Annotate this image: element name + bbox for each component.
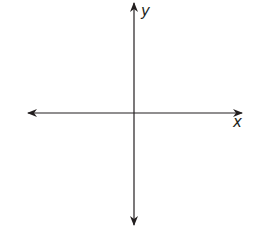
coordinate-plane [0, 0, 258, 241]
y-axis-label: y [141, 4, 150, 19]
x-axis-label: x [233, 115, 242, 130]
